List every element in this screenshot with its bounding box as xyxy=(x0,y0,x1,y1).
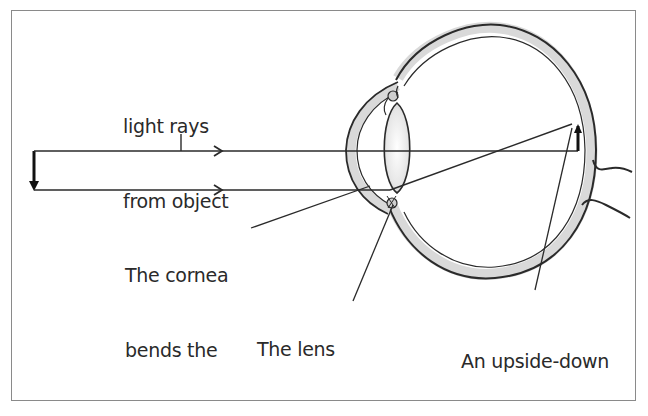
label-line: The cornea xyxy=(125,263,228,288)
label-line: bends the xyxy=(257,412,349,416)
label-line: An upside-down xyxy=(461,349,611,374)
label-cornea: The cornea bends the light rays. xyxy=(125,213,228,416)
retina-image-arrow xyxy=(574,124,582,151)
label-retina: An upside-down image is formed on the re… xyxy=(461,299,611,416)
label-line: from object xyxy=(123,189,229,214)
light-rays xyxy=(34,124,578,195)
label-lens: The lens bends the light rays. xyxy=(257,287,349,416)
label-line: The lens xyxy=(257,337,349,362)
label-line: light rays xyxy=(123,114,229,139)
label-pointers xyxy=(251,128,572,301)
object-arrow xyxy=(29,151,39,191)
label-line: bends the xyxy=(125,338,228,363)
